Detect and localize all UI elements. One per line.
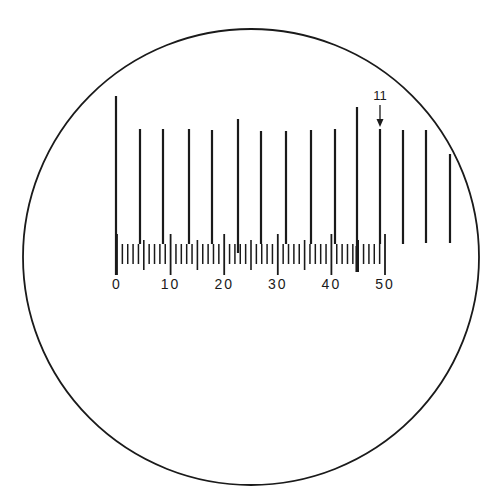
micrometer-diagram: 01020304050 11: [0, 0, 495, 504]
scale-label-40: 40: [322, 276, 342, 292]
ocular-scale-ticks: [117, 234, 385, 275]
scale-label-30: 30: [268, 276, 288, 292]
annotation-label: 11: [373, 88, 387, 103]
arrow-head-icon: [377, 119, 384, 127]
scale-label-20: 20: [214, 276, 234, 292]
coincidence-mark: [356, 246, 360, 272]
scale-label-0: 0: [112, 276, 122, 292]
scale-label-10: 10: [161, 276, 181, 292]
line-11-annotation: 11: [373, 88, 387, 127]
scale-label-50: 50: [375, 276, 395, 292]
ocular-scale-labels: 01020304050: [112, 276, 395, 292]
